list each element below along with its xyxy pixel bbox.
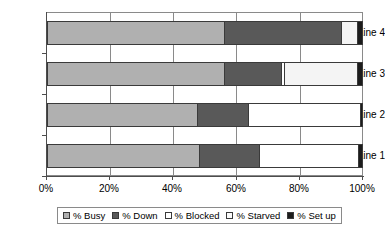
bar-segment-busy xyxy=(47,62,224,86)
x-axis-tick-40 xyxy=(172,176,173,180)
legend-label: % Down xyxy=(122,211,157,221)
x-axis-tick-0 xyxy=(46,176,47,180)
y-axis-tick xyxy=(42,135,46,136)
y-axis-tick xyxy=(42,94,46,95)
bar-segment-starved xyxy=(284,62,357,86)
legend-swatch-icon xyxy=(287,212,294,219)
x-axis-label-100: 100% xyxy=(342,183,382,194)
legend-swatch-icon xyxy=(165,212,172,219)
legend-label: % Set up xyxy=(297,211,336,221)
x-axis-label-60: 60% xyxy=(216,183,256,194)
x-axis-label-40: 40% xyxy=(152,183,192,194)
x-axis-tick-60 xyxy=(236,176,237,180)
legend-item-set-up[interactable]: % Set up xyxy=(287,211,336,221)
bar-line-3 xyxy=(47,62,363,86)
chart-legend: % Busy% Down% Blocked% Starved% Set up xyxy=(57,207,342,224)
x-axis-tick-20 xyxy=(109,176,110,180)
bar-line-4 xyxy=(47,21,363,45)
bar-segment-starved xyxy=(341,21,357,45)
bar-line-1 xyxy=(47,144,363,168)
bar-segment-blocked xyxy=(259,144,359,168)
bar-segment-set-up xyxy=(357,21,363,45)
x-axis-label-0: 0% xyxy=(26,183,66,194)
x-axis-label-20: 20% xyxy=(89,183,129,194)
legend-label: % Blocked xyxy=(175,211,220,221)
legend-swatch-icon xyxy=(63,212,70,219)
legend-item-blocked[interactable]: % Blocked xyxy=(165,211,220,221)
legend-swatch-icon xyxy=(112,212,119,219)
bar-segment-set-up xyxy=(360,103,363,127)
x-axis-tick-80 xyxy=(299,176,300,180)
legend-label: % Starved xyxy=(236,211,280,221)
x-axis-line xyxy=(46,176,364,177)
bar-segment-busy xyxy=(47,103,197,127)
bar-line-2 xyxy=(47,103,363,127)
bar-segment-down xyxy=(199,144,259,168)
bar-segment-blocked xyxy=(248,103,360,127)
bar-segment-down xyxy=(224,21,341,45)
stacked-bar-chart: Line 4 Line 3 Line 2 Line 1 0% 20% 40% 6… xyxy=(0,0,385,236)
legend-item-down[interactable]: % Down xyxy=(112,211,157,221)
y-axis-tick xyxy=(42,53,46,54)
legend-swatch-icon xyxy=(226,212,233,219)
bar-segment-down xyxy=(197,103,248,127)
x-axis-label-80: 80% xyxy=(279,183,319,194)
bar-segment-busy xyxy=(47,21,224,45)
legend-item-busy[interactable]: % Busy xyxy=(63,211,105,221)
bar-segment-down xyxy=(224,62,281,86)
x-axis-tick-100 xyxy=(362,176,363,180)
legend-label: % Busy xyxy=(73,211,105,221)
bar-segment-set-up xyxy=(358,144,363,168)
bar-segment-busy xyxy=(47,144,199,168)
legend-item-starved[interactable]: % Starved xyxy=(226,211,280,221)
bar-segment-set-up xyxy=(357,62,363,86)
